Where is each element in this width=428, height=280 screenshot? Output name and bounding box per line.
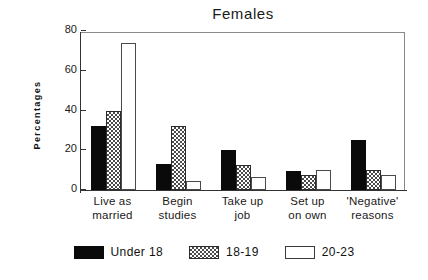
bar-3-3[interactable]	[251, 177, 266, 190]
y-tick-mark	[81, 30, 86, 31]
x-axis-label-line: on own	[275, 208, 340, 222]
x-axis-label-line: Set up	[275, 194, 340, 208]
bar-4-2[interactable]	[301, 175, 316, 190]
bar-2-3[interactable]	[186, 181, 201, 190]
x-axis-label-line: 'Negative'	[340, 194, 405, 208]
legend-entry-1[interactable]: Under 18	[74, 245, 164, 259]
bar-group-3	[221, 33, 266, 190]
legend-swatch-icon	[189, 246, 219, 259]
x-axis-label-1: Live asmarried	[80, 194, 145, 222]
legend-label: Under 18	[111, 245, 164, 259]
legend-swatch-icon	[285, 246, 315, 259]
bar-4-3[interactable]	[316, 170, 331, 190]
bar-4-1[interactable]	[286, 171, 301, 190]
y-tick-label: 60	[65, 63, 77, 75]
x-axis-line	[80, 190, 407, 191]
legend-swatch-icon	[74, 246, 104, 259]
bar-group-1	[91, 33, 136, 190]
bars-layer	[81, 33, 404, 190]
y-tick-label: 0	[71, 182, 77, 194]
legend-entry-2[interactable]: 18-19	[189, 245, 259, 259]
bar-group-2	[156, 33, 201, 190]
y-axis-label: Percentages	[32, 55, 42, 175]
bar-group-5	[351, 33, 396, 190]
bar-chart-figure: Females Percentages 020406080 Live asmar…	[0, 0, 428, 280]
x-axis-label-2: Beginstudies	[145, 194, 210, 222]
y-tick-label: 80	[65, 23, 77, 35]
x-axis-label-line: married	[80, 208, 145, 222]
bar-2-1[interactable]	[156, 164, 171, 190]
bar-5-2[interactable]	[366, 170, 381, 190]
bar-2-2[interactable]	[171, 126, 186, 190]
x-axis-label-line: Begin	[145, 194, 210, 208]
y-tick-80: 80	[81, 30, 86, 31]
legend-label: 20-23	[322, 245, 355, 259]
bar-3-2[interactable]	[236, 165, 251, 190]
plot-area: 020406080	[80, 32, 405, 191]
chart-title: Females	[80, 5, 406, 22]
bar-1-2[interactable]	[106, 111, 121, 191]
x-axis-labels: Live asmarriedBeginstudiesTake upjobSet …	[80, 194, 405, 230]
bar-1-3[interactable]	[121, 43, 136, 190]
y-tick-label: 20	[65, 142, 77, 154]
x-axis-label-4: Set upon own	[275, 194, 340, 222]
x-axis-label-line: reasons	[340, 208, 405, 222]
bar-5-3[interactable]	[381, 175, 396, 190]
bar-3-1[interactable]	[221, 150, 236, 190]
x-axis-label-3: Take upjob	[210, 194, 275, 222]
bar-5-1[interactable]	[351, 140, 366, 190]
x-axis-label-line: Take up	[210, 194, 275, 208]
bar-1-1[interactable]	[91, 126, 106, 190]
x-axis-label-5: 'Negative'reasons	[340, 194, 405, 222]
legend-label: 18-19	[226, 245, 259, 259]
legend-entry-3[interactable]: 20-23	[285, 245, 355, 259]
y-tick-label: 40	[65, 103, 77, 115]
chart-legend: Under 1818-1920-23	[0, 245, 428, 259]
bar-group-4	[286, 33, 331, 190]
x-axis-label-line: studies	[145, 208, 210, 222]
x-axis-label-line: Live as	[80, 194, 145, 208]
x-axis-label-line: job	[210, 208, 275, 222]
